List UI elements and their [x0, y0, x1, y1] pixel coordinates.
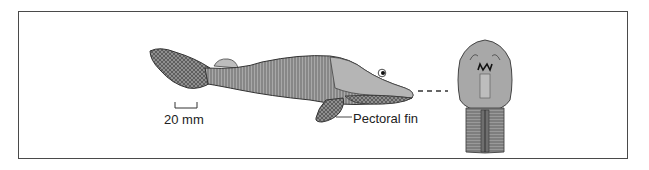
dorsal-fin: [214, 59, 238, 68]
fish-body: [205, 56, 413, 105]
head-anterior-view: [458, 40, 512, 153]
pectoral-fin-label: Pectoral fin: [353, 111, 418, 126]
scale-bar-label: 20 mm: [164, 112, 204, 127]
scale-bar: [175, 102, 197, 108]
tail-fin: [150, 49, 212, 89]
fish-illustration: [0, 0, 649, 170]
